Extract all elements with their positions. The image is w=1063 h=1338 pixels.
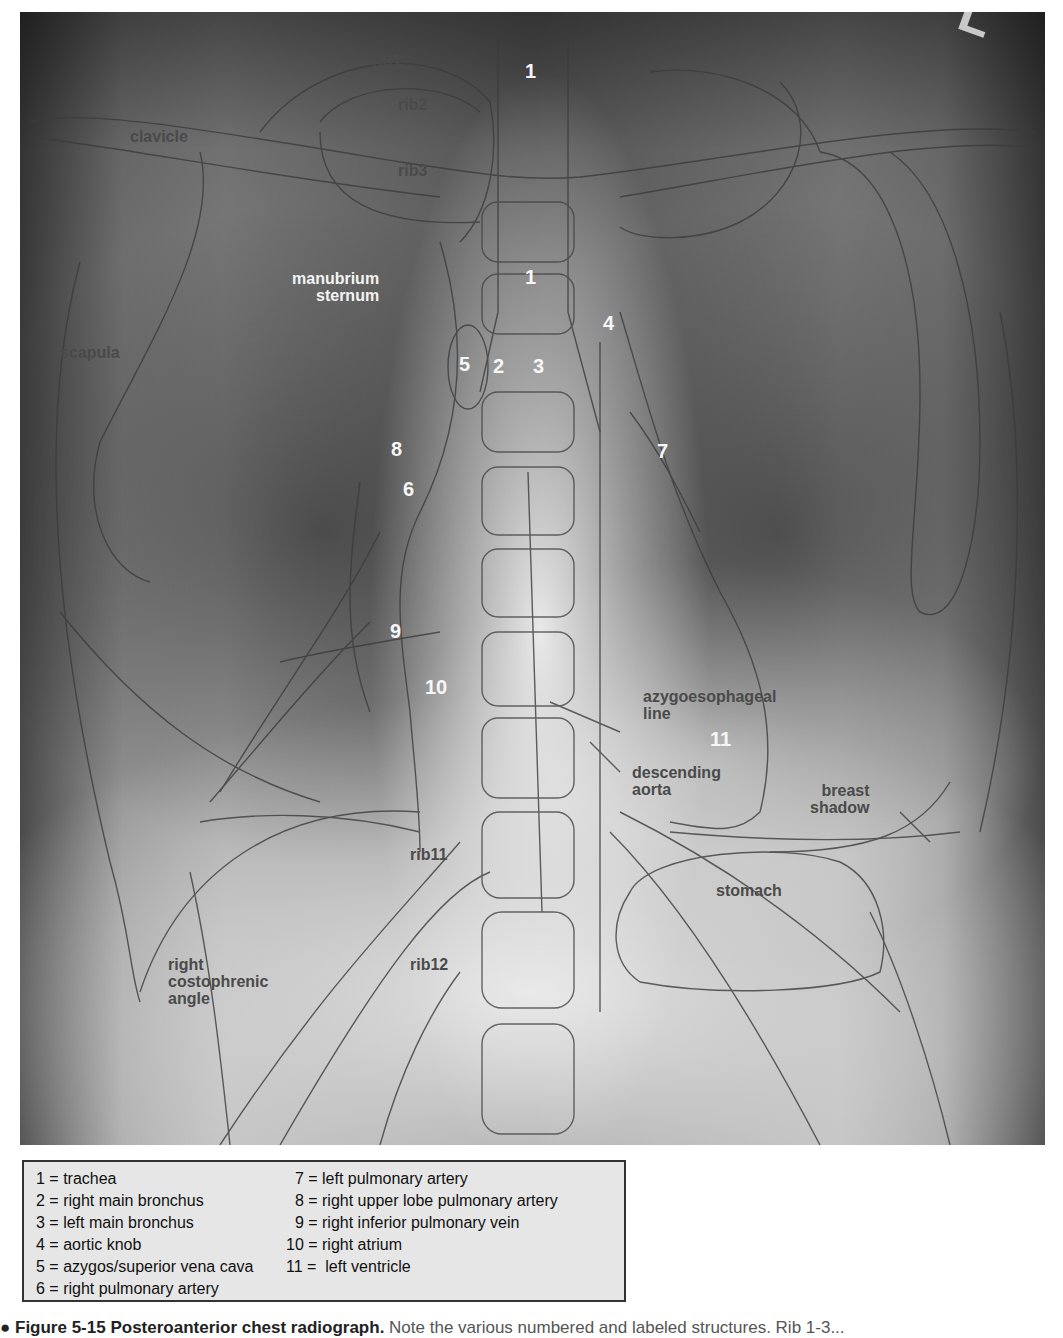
marker-10-right-atrium: 10: [425, 676, 447, 699]
chest-radiograph: L rib1 rib2 rib3 clavicle manubrium ster…: [20, 12, 1045, 1145]
marker-5-azygos: 5: [459, 353, 470, 376]
legend-item: 5 = azygos/superior vena cava: [36, 1256, 253, 1278]
label-rib12: rib12: [410, 956, 448, 973]
label-rib3: rib3: [398, 162, 427, 179]
figure-caption: ● Figure 5-15 Posteroanterior chest radi…: [0, 1318, 845, 1338]
label-stomach: stomach: [716, 882, 782, 899]
corner-orientation-marker: L: [958, 12, 994, 30]
legend-item: 6 = right pulmonary artery: [36, 1278, 253, 1300]
legend-item: 4 = aortic knob: [36, 1234, 253, 1256]
legend-column-right: 7 = left pulmonary artery 8 = right uppe…: [286, 1168, 558, 1278]
legend-item: 1 = trachea: [36, 1168, 253, 1190]
caption-title: ● Figure 5-15 Posteroanterior chest radi…: [0, 1318, 384, 1337]
legend-column-left: 1 = trachea 2 = right main bronchus 3 = …: [36, 1168, 253, 1300]
legend-box: 1 = trachea 2 = right main bronchus 3 = …: [22, 1160, 626, 1302]
marker-1-trachea-lower: 1: [525, 266, 536, 289]
label-right-costophrenic-angle: right costophrenic angle: [168, 956, 268, 1007]
label-rib11: rib11: [410, 846, 447, 863]
legend-item: 10 = right atrium: [286, 1234, 558, 1256]
label-azygoesophageal-line: azygoesophageal line: [643, 688, 776, 722]
marker-1-trachea: 1: [525, 60, 536, 83]
legend-item: 2 = right main bronchus: [36, 1190, 253, 1212]
legend-item: 7 = left pulmonary artery: [286, 1168, 558, 1190]
marker-6-right-pulmonary-artery: 6: [403, 478, 414, 501]
marker-4-aortic-knob: 4: [603, 312, 614, 335]
marker-2-right-bronchus: 2: [493, 355, 504, 378]
marker-8-right-upper-lobe-artery: 8: [391, 438, 402, 461]
legend-item: 9 = right inferior pulmonary vein: [286, 1212, 558, 1234]
label-breast-shadow: breast shadow: [810, 782, 870, 816]
marker-9-right-inferior-pulmonary-vein: 9: [390, 620, 401, 643]
legend-item: 8 = right upper lobe pulmonary artery: [286, 1190, 558, 1212]
legend-item: 11 = left ventricle: [286, 1256, 558, 1278]
label-descending-aorta: descending aorta: [632, 764, 721, 798]
legend-item: 3 = left main bronchus: [36, 1212, 253, 1234]
label-manubrium-sternum: manubrium sternum: [292, 270, 379, 304]
marker-7-left-pulmonary-artery: 7: [657, 440, 668, 463]
marker-3-left-bronchus: 3: [533, 355, 544, 378]
marker-11-left-ventricle: 11: [710, 728, 731, 751]
caption-text: Note the various numbered and labeled st…: [384, 1318, 844, 1337]
label-clavicle: clavicle: [130, 128, 188, 145]
label-rib2: rib2: [398, 96, 427, 113]
label-rib1: rib1: [372, 52, 401, 69]
label-scapula: scapula: [60, 344, 120, 361]
